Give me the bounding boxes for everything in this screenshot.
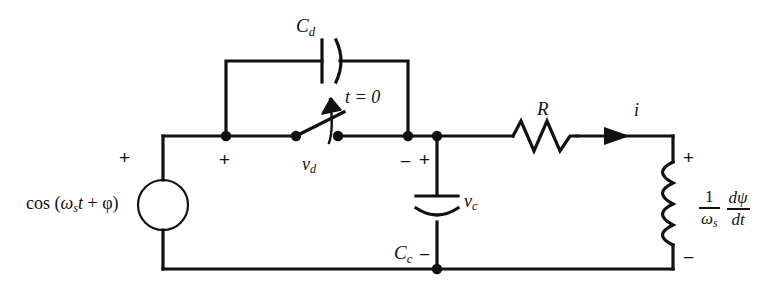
switch-time-label: t = 0 [345, 88, 380, 106]
inductor-plus: + [683, 148, 694, 167]
source-plus: + [119, 148, 130, 167]
node-cd-left [221, 131, 231, 141]
voltage-vd-label: vd [302, 155, 316, 176]
vd-minus: − [400, 152, 411, 171]
node-switch-left [291, 131, 301, 141]
node-cc-bottom [432, 264, 442, 274]
inductor-minus: − [683, 248, 694, 267]
circuit-diagram [0, 0, 777, 300]
node-switch-right [333, 131, 343, 141]
vc-minus: − [419, 245, 430, 264]
node-cd-right [403, 131, 413, 141]
voltage-vc-label: vc [464, 192, 477, 213]
resistor-label: R [537, 99, 549, 118]
source-label: cos (ωst + φ) [26, 194, 119, 215]
capacitor-cd-label: Cd [296, 16, 315, 39]
inductor-symbol [663, 162, 674, 245]
inductor-label: 1 ωs dψ dt [699, 188, 750, 230]
vc-plus: + [419, 150, 430, 169]
resistor-symbol [513, 121, 577, 151]
wire-cd-left [226, 61, 322, 136]
switch-arrow-head [322, 98, 341, 114]
current-label: i [634, 101, 639, 119]
cap-cc-plate-curved [416, 208, 458, 215]
current-arrow-head [604, 127, 630, 145]
fraction-one-over-omega: 1 ωs [699, 188, 720, 230]
ac-source-symbol [138, 180, 188, 230]
capacitor-cc-label: Cc [394, 243, 412, 266]
fraction-dpsi-over-dt: dψ dt [727, 189, 750, 229]
node-cc-top [432, 131, 442, 141]
vd-plus: + [219, 150, 230, 169]
